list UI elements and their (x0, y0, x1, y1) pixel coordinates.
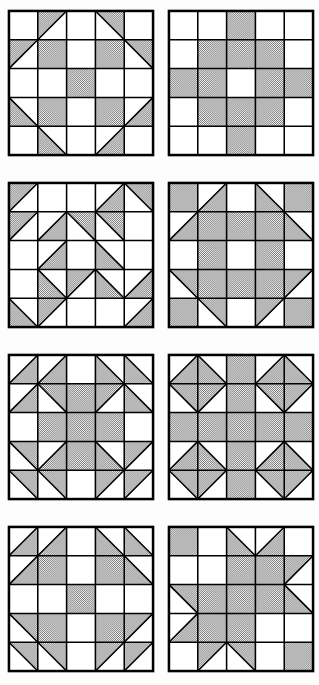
patch-full (255, 269, 284, 298)
patch-full (198, 69, 227, 98)
patch-full (227, 97, 256, 126)
patch-full (227, 355, 256, 384)
patch-full (227, 441, 256, 470)
quilt-block[interactable] (7, 525, 157, 685)
patch-full (227, 126, 256, 155)
quilt-block[interactable] (7, 181, 157, 341)
quilt-block[interactable] (167, 525, 317, 685)
quilt-block-canvas (167, 181, 315, 329)
quilt-block[interactable] (167, 9, 317, 169)
patch-full (284, 183, 313, 212)
patch-full (38, 40, 67, 69)
patch-full (227, 585, 256, 614)
patch-full (255, 413, 284, 442)
quilt-block[interactable] (7, 353, 157, 513)
patch-full (284, 413, 313, 442)
patch-full (169, 527, 198, 556)
patch-full (198, 413, 227, 442)
patch-full (67, 69, 96, 98)
patch-full (255, 241, 284, 270)
patch-full (284, 298, 313, 327)
patch-full (284, 642, 313, 671)
patch-full (255, 585, 284, 614)
quilt-block-canvas (167, 9, 315, 157)
patch-full (255, 212, 284, 241)
patch-full (198, 40, 227, 69)
patch-full (95, 556, 124, 585)
patch-full (227, 470, 256, 499)
patch-full (67, 413, 96, 442)
block-grid (0, 0, 319, 685)
patch-full (255, 40, 284, 69)
patch-full (38, 556, 67, 585)
quilt-block-canvas (7, 181, 155, 329)
quilt-block-canvas (7, 525, 155, 673)
patch-full (227, 413, 256, 442)
patch-full (95, 97, 124, 126)
patch-full (284, 69, 313, 98)
patch-full (38, 413, 67, 442)
patch-full (38, 613, 67, 642)
patch-full (95, 613, 124, 642)
patch-full (227, 212, 256, 241)
patch-full (198, 585, 227, 614)
quilt-block[interactable] (167, 353, 317, 513)
patch-full (169, 183, 198, 212)
patch-full (198, 613, 227, 642)
patch-full (227, 556, 256, 585)
patch-full (95, 40, 124, 69)
patch-full (38, 97, 67, 126)
quilt-block-canvas (167, 525, 315, 673)
block-background (9, 183, 153, 327)
patch-full (198, 241, 227, 270)
patch-full (169, 298, 198, 327)
patch-full (95, 413, 124, 442)
patch-full (67, 441, 96, 470)
patch-full (255, 69, 284, 98)
patch-full (198, 212, 227, 241)
quilt-block-canvas (7, 9, 155, 157)
patch-full (67, 585, 96, 614)
patch-full (67, 384, 96, 413)
patch-full (227, 384, 256, 413)
patch-full (255, 556, 284, 585)
quilt-block-canvas (167, 353, 315, 501)
patch-full (227, 269, 256, 298)
patch-full (198, 97, 227, 126)
patch-full (227, 613, 256, 642)
patch-full (255, 97, 284, 126)
quilt-pattern-sheet (0, 0, 319, 685)
quilt-block[interactable] (167, 181, 317, 341)
patch-full (169, 413, 198, 442)
patch-full (227, 40, 256, 69)
patch-full (169, 69, 198, 98)
quilt-block-canvas (7, 353, 155, 501)
patch-full (227, 11, 256, 40)
quilt-block[interactable] (7, 9, 157, 169)
patch-full (198, 269, 227, 298)
